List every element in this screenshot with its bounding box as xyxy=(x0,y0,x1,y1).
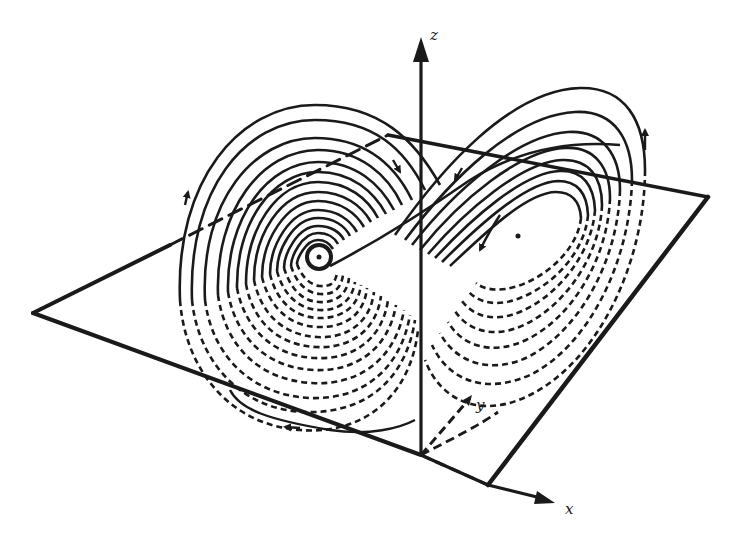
attractor-diagram: z y x xyxy=(0,0,734,543)
z-axis-label: z xyxy=(429,26,438,44)
plane-edge-left-front xyxy=(33,313,421,455)
right-lobe-dashed xyxy=(425,170,645,406)
x-axis-arrowhead xyxy=(534,491,555,504)
y-axis-dashed xyxy=(421,398,470,455)
left-fixed-point xyxy=(307,245,331,269)
y-axis-label: y xyxy=(475,396,485,414)
y-axis-second-dashed xyxy=(421,412,498,455)
plane-edge-back-right xyxy=(388,135,708,197)
plane-edge-left-back xyxy=(33,245,170,313)
bottom-return-arrow xyxy=(285,427,300,428)
axes-group xyxy=(413,37,555,504)
x-axis-label: x xyxy=(565,500,574,518)
right-inner-arrow xyxy=(480,215,500,250)
right-fixed-point xyxy=(516,234,521,239)
right-lobe-solid xyxy=(395,88,645,266)
left-lobe-solid xyxy=(180,105,440,300)
plane-edge-right-front xyxy=(488,197,708,485)
left-lobe-dashed xyxy=(180,264,418,430)
z-axis-arrowhead xyxy=(413,37,429,62)
lorenz-attractor-figure: z y x xyxy=(0,0,734,543)
arrow-left-outer-up xyxy=(185,192,188,205)
